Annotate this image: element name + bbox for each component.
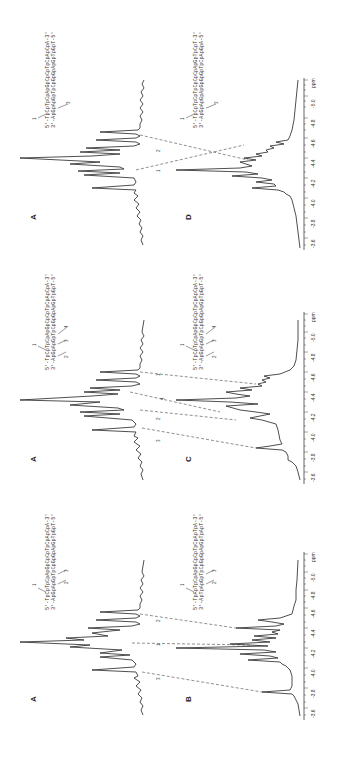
tick-label: -4.8: [310, 353, 316, 362]
row-2: 1 4 2 3 A C 5'-TpCpTpCpApGpCpCpTpCpApCpA…: [20, 273, 316, 484]
dash-label: 2: [156, 149, 161, 152]
tick-label: -4.2: [310, 179, 316, 188]
marker: 3: [214, 101, 219, 104]
sequence-bottom: 3'-ApGpApGpApGpGpGpTpCpApGpA-5': [199, 31, 205, 128]
panel-label-c: C: [184, 456, 193, 462]
marker: 2: [212, 355, 217, 358]
marker: 3: [64, 569, 69, 572]
panel-label-d: D: [184, 214, 193, 220]
marker: 3: [64, 339, 69, 342]
marker: 1: [32, 583, 37, 586]
tick-label: -4.4: [310, 629, 316, 638]
tick-label: -3.8: [310, 219, 316, 228]
marker: 3: [66, 101, 71, 104]
tick-label: -5.0: [310, 99, 316, 108]
panel-label-a: A: [29, 456, 38, 462]
tick-label: -3.6: [310, 473, 316, 482]
marker: 4: [212, 325, 217, 328]
dash-lines-row1: [136, 135, 248, 170]
marker: 4: [64, 325, 69, 328]
tick-label: -4.4: [310, 393, 316, 402]
tick-label: -4.6: [310, 373, 316, 382]
marker: 3: [212, 569, 217, 572]
tick-label: -3.6: [310, 239, 316, 248]
marker: 1: [180, 117, 185, 120]
dash-label: 2: [156, 619, 161, 622]
marker: 1: [180, 583, 185, 586]
sequence-bottom: 3'-ApGpApGpTpCpGpGpApGpTpGpT-5': [51, 31, 57, 128]
axis-unit: ppm: [310, 78, 316, 88]
dash-label: 4: [160, 397, 165, 400]
tick-label: -4.0: [310, 433, 316, 442]
tick-label: -5.0: [310, 333, 316, 342]
tick-label: -4.2: [310, 413, 316, 422]
dash-lines-row2: [130, 372, 256, 448]
marker: 1: [32, 117, 37, 120]
nmr-figure: 2 1 A D 5'-TpCpTpCpApGpCpCpTpCpApCpA-3' …: [0, 0, 348, 760]
dash-lines-row3: [132, 614, 262, 692]
ppm-axis-row2: ppm -5.0 -4.8 -4.6 -4.4 -4.2 -4.0 -3.8 -…: [304, 312, 316, 484]
tick-label: -5.0: [310, 573, 316, 582]
marker-arrows: [38, 570, 214, 592]
tick-label: -4.2: [310, 649, 316, 658]
ppm-axis-row3: ppm -5.0 -4.8 -4.6 -4.4 -4.2 -4.0 -3.8 -…: [304, 552, 316, 720]
tick-label: -4.6: [310, 609, 316, 618]
tick-label: -4.0: [310, 199, 316, 208]
tick-label: -4.8: [310, 119, 316, 128]
sequence-bottom: 3'-ApGpApGpTpCpGpGpApGpTpGpT-5': [51, 273, 57, 370]
sequence-bottom: 3'-ApGpApGpTpCpGpGpApGpTpGpT-5': [199, 273, 205, 370]
ppm-axis-row1: ppm -5.0 -4.8 -4.6 -4.4 -4.2 -4.0 -3.8 -…: [304, 78, 316, 250]
dash-label: 1: [156, 169, 161, 172]
sequence-bottom: 3'-ApTpApGpTpCpGpGpApGpTpApT-5': [199, 513, 205, 610]
marker: 2: [212, 581, 217, 584]
panel-label-a: A: [29, 696, 38, 702]
marker: 3: [212, 339, 217, 342]
marker-arrows: [38, 104, 216, 118]
spectrum-a-row3: [20, 560, 144, 715]
axis-unit: ppm: [310, 312, 316, 322]
dash-label: 2: [156, 417, 161, 420]
spectrum-a-row2: [20, 320, 144, 480]
tick-label: -4.4: [310, 159, 316, 168]
marker: 2: [64, 355, 69, 358]
panel-label-a: A: [29, 214, 38, 220]
tick-label: -4.6: [310, 139, 316, 148]
dash-label: 3: [156, 677, 161, 680]
tick-label: -3.8: [310, 453, 316, 462]
tick-label: -3.8: [310, 689, 316, 698]
marker: 1: [180, 343, 185, 346]
dash-label: 3: [156, 439, 161, 442]
panel-label-b: B: [184, 696, 193, 702]
row-1: 2 1 A D 5'-TpCpTpCpApGpCpCpTpCpApCpA-3' …: [20, 31, 316, 250]
spectrum-a-row1: [20, 80, 144, 245]
row-3: 2 1 3 A B 5'-TpCpTpCpApGpCpCpTpCpApCpA-3…: [20, 513, 316, 720]
sequence-bottom: 3'-ApGpApGpTpCpGpGpApGpTpGpT-5': [51, 513, 57, 610]
tick-label: -3.6: [310, 709, 316, 718]
marker: 2: [64, 581, 69, 584]
tick-label: -4.0: [310, 669, 316, 678]
axis-unit: ppm: [310, 552, 316, 562]
marker: 1: [32, 343, 37, 346]
tick-label: -4.8: [310, 591, 316, 600]
